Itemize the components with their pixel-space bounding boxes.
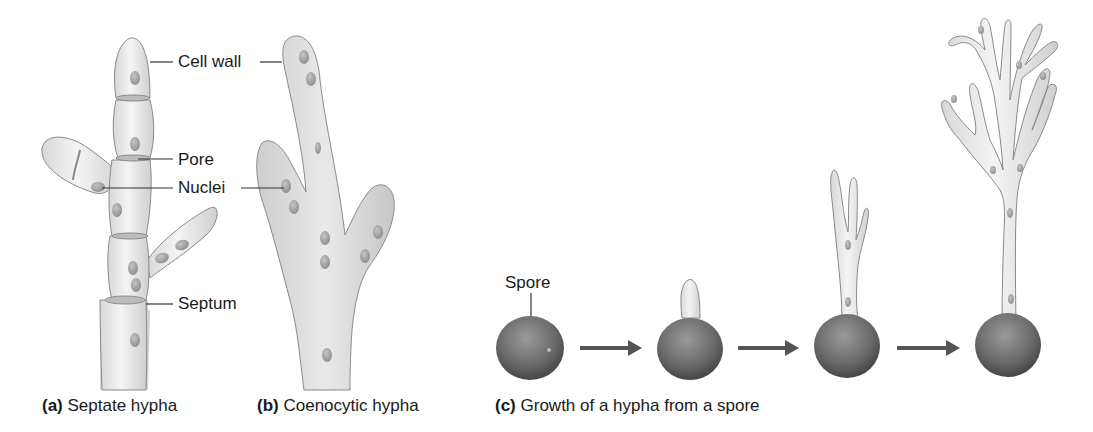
stage-2-germinating	[657, 280, 723, 380]
label-nuclei: Nuclei	[178, 178, 225, 198]
caption-c-letter: (c)	[495, 396, 516, 415]
caption-a: (a) Septate hypha	[42, 396, 177, 416]
caption-b: (b) Coenocytic hypha	[257, 396, 419, 416]
caption-c-text: Growth of a hypha from a spore	[521, 396, 760, 415]
coenocytic-hypha-illustration	[241, 36, 394, 390]
label-cell-wall: Cell wall	[178, 52, 241, 72]
caption-b-letter: (b)	[257, 396, 279, 415]
caption-a-text: Septate hypha	[68, 396, 178, 415]
label-spore: Spore	[505, 273, 550, 293]
label-pore: Pore	[178, 150, 214, 170]
stage-3-branching	[814, 170, 880, 378]
hypha-diagram	[0, 0, 1093, 432]
main-stalk	[100, 38, 154, 390]
arrow-2	[738, 340, 799, 356]
arrow-1	[580, 340, 642, 356]
caption-c: (c) Growth of a hypha from a spore	[495, 396, 760, 416]
caption-b-text: Coenocytic hypha	[283, 396, 418, 415]
stage-4-mycelium	[942, 19, 1058, 377]
right-branch	[146, 207, 217, 278]
caption-a-letter: (a)	[42, 396, 63, 415]
label-septum: Septum	[178, 294, 237, 314]
septate-hypha-illustration	[42, 38, 217, 390]
stage-1-spore	[496, 293, 564, 380]
spore-growth-illustration	[496, 19, 1058, 380]
arrow-3	[897, 340, 960, 356]
